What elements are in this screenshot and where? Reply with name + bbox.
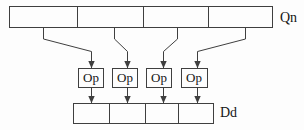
op-label-2: Op (117, 70, 133, 85)
qn-label: Qn (280, 10, 297, 25)
dd-register-bar (74, 104, 214, 124)
dd-label: Dd (220, 105, 237, 120)
arrow-qn-seg1-to-op1 (44, 28, 92, 68)
arrow-qn-seg4-to-op4 (198, 28, 246, 68)
qn-register-bar (10, 7, 273, 28)
op-label-4: Op (186, 70, 202, 85)
op-label-1: Op (83, 70, 99, 85)
arrow-qn-seg2-to-op2 (115, 28, 128, 68)
op-label-3: Op (151, 70, 167, 85)
diagram-canvas: Qn Op Op Op Op Dd (0, 0, 304, 130)
arrow-qn-seg3-to-op3 (164, 28, 178, 68)
division-operation-diagram: Qn Op Op Op Op Dd (0, 0, 304, 130)
